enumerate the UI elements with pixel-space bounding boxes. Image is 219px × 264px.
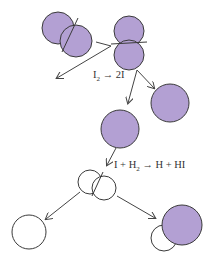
eq2-part2: → H + HI bbox=[140, 159, 186, 170]
arrow-right-icon bbox=[137, 70, 154, 88]
eq2-part1: I + H bbox=[114, 159, 136, 170]
reaction-equation: I + H2 → H + HI bbox=[114, 159, 185, 173]
I-atom-right bbox=[151, 84, 189, 122]
H2-molecule bbox=[78, 170, 116, 200]
I-atom-middle bbox=[101, 110, 139, 148]
H-atom bbox=[12, 215, 46, 249]
collision-line bbox=[96, 42, 111, 46]
reaction-diagram bbox=[0, 0, 219, 264]
arrow-down-icon bbox=[128, 70, 137, 103]
HI-molecule bbox=[151, 205, 202, 251]
I2-molecule-dissociating bbox=[111, 16, 147, 70]
I2-molecule-left bbox=[42, 12, 92, 57]
arrow-to-h-icon bbox=[46, 192, 80, 219]
dissociation-equation: I2 → 2I bbox=[93, 69, 125, 83]
eq1-rest: → 2I bbox=[100, 69, 125, 80]
arrow-to-hi-icon bbox=[117, 196, 155, 218]
